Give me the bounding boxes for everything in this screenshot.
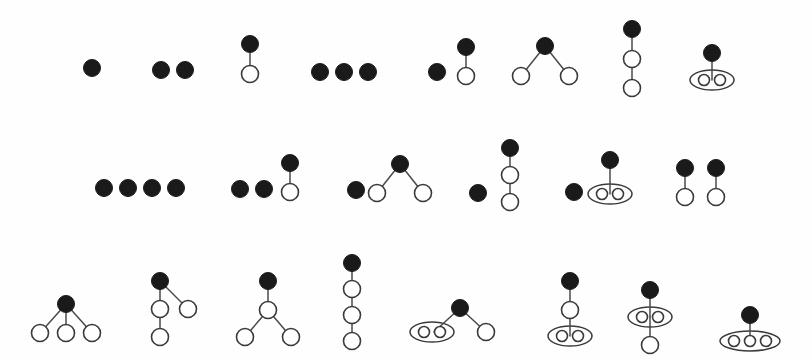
open-node [180, 301, 197, 318]
graph-diagram-d04 [312, 64, 377, 81]
open-node [561, 68, 578, 85]
open-node [502, 194, 519, 211]
filled-node [344, 255, 361, 272]
filled-node [336, 64, 353, 81]
filled-node [260, 273, 277, 290]
open-node [58, 325, 75, 342]
open-node [260, 302, 277, 319]
filled-node [602, 152, 619, 169]
open-node [699, 75, 710, 86]
filled-node [704, 45, 721, 62]
filled-node [177, 62, 194, 79]
open-node [419, 327, 430, 338]
filled-node [242, 36, 259, 53]
open-node [283, 329, 300, 346]
open-node [624, 80, 641, 97]
open-node [282, 184, 299, 201]
open-node [557, 331, 568, 342]
open-node [502, 167, 519, 184]
open-node [715, 75, 726, 86]
filled-node [677, 160, 694, 177]
open-node [761, 336, 772, 347]
filled-node [144, 180, 161, 197]
graph-figure-canvas [0, 0, 812, 361]
open-node [677, 189, 694, 206]
filled-node [470, 185, 487, 202]
filled-node [360, 64, 377, 81]
filled-node [742, 307, 759, 324]
graph-diagram-d07 [624, 21, 641, 97]
open-node [152, 329, 169, 346]
filled-node [348, 182, 365, 199]
filled-node [502, 140, 519, 157]
open-node [152, 301, 169, 318]
open-node [708, 189, 725, 206]
filled-node [429, 64, 446, 81]
open-node [624, 51, 641, 68]
open-node [637, 312, 648, 323]
open-node [478, 324, 495, 341]
open-node [415, 185, 432, 202]
open-node [344, 333, 361, 350]
filled-node [152, 273, 169, 290]
open-node [653, 312, 664, 323]
filled-node [312, 64, 329, 81]
open-node [344, 307, 361, 324]
filled-node [96, 180, 113, 197]
filled-node [392, 156, 409, 173]
open-node [729, 336, 740, 347]
filled-node [562, 273, 579, 290]
filled-node [642, 282, 659, 299]
filled-node [458, 39, 475, 56]
open-node [573, 331, 584, 342]
open-node [435, 327, 446, 338]
filled-node [537, 38, 554, 55]
open-node [642, 337, 659, 354]
filled-node [232, 181, 249, 198]
open-node [745, 336, 756, 347]
open-node [597, 189, 608, 200]
filled-node [84, 60, 101, 77]
filled-node [452, 300, 469, 317]
open-node [458, 68, 475, 85]
open-node [613, 189, 624, 200]
open-node [84, 325, 101, 342]
filled-node [168, 180, 185, 197]
open-node [513, 68, 530, 85]
filled-node [624, 21, 641, 38]
filled-node [120, 180, 137, 197]
open-node [562, 302, 579, 319]
filled-node [153, 62, 170, 79]
filled-node [256, 181, 273, 198]
open-node [237, 329, 254, 346]
figure-background [0, 0, 812, 361]
graph-diagram-d01 [84, 60, 101, 77]
open-node [242, 66, 259, 83]
open-node [369, 185, 386, 202]
open-node [32, 325, 49, 342]
filled-node [282, 155, 299, 172]
filled-node [58, 296, 75, 313]
filled-node [566, 184, 583, 201]
open-node [344, 281, 361, 298]
filled-node [708, 160, 725, 177]
